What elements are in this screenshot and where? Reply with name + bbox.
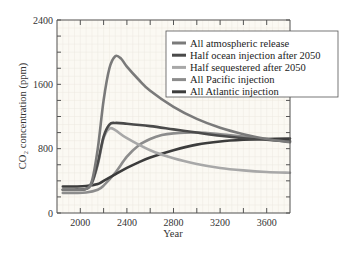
legend-label: All atmospheric release (190, 38, 289, 49)
y-axis-title: CO₂ concentration (ppm) (17, 62, 29, 169)
y-tick-label: 800 (38, 143, 53, 154)
legend-label: All Pacific injection (190, 74, 275, 85)
legend-label: Half sequestered after 2050 (190, 62, 306, 73)
x-tick-label: 3200 (210, 217, 230, 228)
y-tick-label: 2400 (33, 15, 53, 26)
legend-label: All Atlantic injection (190, 86, 279, 97)
x-tick-label: 2800 (164, 217, 184, 228)
legend: All atmospheric releaseHalf ocean inject… (166, 31, 338, 97)
x-tick-label: 2000 (70, 217, 90, 228)
x-tick-label: 2400 (117, 217, 137, 228)
x-axis-title: Year (163, 228, 183, 239)
legend-label: Half ocean injection after 2050 (190, 50, 321, 61)
y-tick-label: 0 (48, 208, 53, 219)
x-tick-label: 3600 (257, 217, 277, 228)
y-tick-label: 1600 (33, 79, 53, 90)
co2-concentration-chart: 20002400280032003600080016002400 Year CO… (0, 0, 351, 254)
